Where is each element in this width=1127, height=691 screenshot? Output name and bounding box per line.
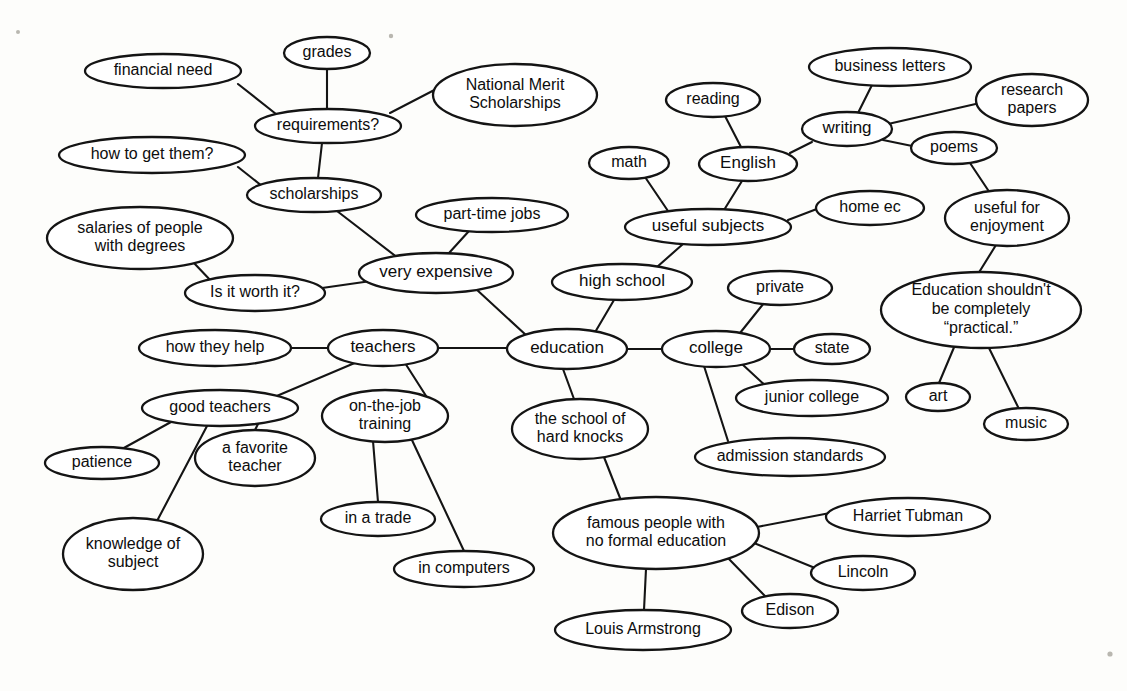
connector-scholarships-to-very-expensive [337,211,398,258]
node-label-poems: poems [930,138,978,155]
connector-math-to-useful-subjects [645,177,668,211]
node-harriet-tubman[interactable]: Harriet Tubman [826,498,990,536]
node-louis-armstrong[interactable]: Louis Armstrong [555,610,731,650]
node-label-is-it-worth-it: Is it worth it? [210,283,300,300]
node-state[interactable]: state [794,334,870,364]
node-label-research-papers: researchpapers [1001,81,1063,117]
connector-famous-people-to-edison [727,557,766,597]
node-business-letters[interactable]: business letters [809,48,971,86]
node-writing[interactable]: writing [802,112,892,146]
node-how-to-get-them[interactable]: how to get them? [59,137,245,173]
node-patience[interactable]: patience [45,447,159,479]
node-education[interactable]: education [507,329,627,369]
connector-on-the-job-training-to-in-a-trade [373,441,378,502]
node-salaries[interactable]: salaries of peoplewith degrees [47,207,233,269]
node-research-papers[interactable]: researchpapers [976,74,1088,126]
node-useful-for-enjoyment[interactable]: useful forenjoyment [945,190,1069,246]
node-grades[interactable]: grades [284,37,370,69]
node-label-how-to-get-them: how to get them? [91,145,214,162]
node-useful-subjects[interactable]: useful subjects [625,209,791,245]
connector-useful-for-enjoyment-to-not-practical [978,245,996,274]
connector-education-to-hard-knocks [563,369,574,399]
node-is-it-worth-it[interactable]: Is it worth it? [185,275,325,311]
connector-very-expensive-to-education [476,289,527,336]
node-junior-college[interactable]: junior college [736,380,888,416]
node-good-teachers[interactable]: good teachers [142,390,298,426]
node-label-music: music [1005,414,1047,431]
node-on-the-job-training[interactable]: on-the-jobtraining [322,390,448,442]
node-admission-standards[interactable]: admission standards [695,438,885,476]
node-reading[interactable]: reading [666,83,760,117]
node-scholarships[interactable]: scholarships [247,178,381,212]
node-in-computers[interactable]: in computers [394,551,534,587]
node-label-in-a-trade: in a trade [345,509,412,526]
node-how-they-help[interactable]: how they help [139,330,291,366]
node-teachers[interactable]: teachers [328,330,438,366]
connector-not-practical-to-music [988,346,1019,409]
paper-speck [16,30,20,34]
node-label-teachers: teachers [350,337,415,356]
connector-writing-to-research-papers [888,103,980,124]
node-label-lincoln: Lincoln [838,563,889,580]
idea-web-svg: educationgradesfinancial needrequirement… [0,0,1127,691]
node-edison[interactable]: Edison [742,594,838,628]
node-label-on-the-job-training: on-the-jobtraining [349,397,421,433]
connector-hard-knocks-to-famous-people [602,452,622,503]
node-label-state: state [815,339,850,356]
node-lincoln[interactable]: Lincoln [811,556,915,590]
node-label-how-they-help: how they help [166,338,265,355]
node-label-private: private [756,278,804,295]
node-in-a-trade[interactable]: in a trade [321,502,435,536]
node-label-college: college [689,338,743,357]
node-label-useful-subjects: useful subjects [652,216,764,235]
node-label-home-ec: home ec [839,198,900,215]
node-poems[interactable]: poems [911,132,997,164]
node-label-requirements: requirements? [277,116,379,133]
node-national-merit[interactable]: National MeritScholarships [433,64,597,126]
connector-famous-people-to-harriet-tubman [757,513,830,527]
node-hard-knocks[interactable]: the school ofhard knocks [512,399,648,459]
connector-famous-people-to-lincoln [754,543,815,568]
node-requirements[interactable]: requirements? [255,109,401,143]
node-college[interactable]: college [662,331,770,367]
idea-web-canvas: educationgradesfinancial needrequirement… [0,0,1127,691]
connector-high-school-to-useful-subjects [657,244,683,267]
node-label-famous-people: famous people withno formal education [586,514,727,550]
node-financial-need[interactable]: financial need [85,54,241,88]
node-english[interactable]: English [699,147,797,181]
node-label-good-teachers: good teachers [169,398,270,415]
node-not-practical[interactable]: Education shouldn'tbe completely“practic… [881,272,1081,348]
node-private[interactable]: private [728,271,832,305]
node-label-reading: reading [686,90,739,107]
connector-education-to-high-school [594,300,614,334]
node-part-time-jobs[interactable]: part-time jobs [416,198,568,232]
node-label-english: English [720,153,776,172]
connector-financial-need-to-requirements [238,84,276,114]
connector-how-to-get-them-to-scholarships [238,167,262,186]
node-label-admission-standards: admission standards [717,447,864,464]
node-layer: educationgradesfinancial needrequirement… [45,37,1088,650]
node-a-favorite-teacher[interactable]: a favoriteteacher [195,430,315,486]
connector-writing-to-business-letters [858,85,872,113]
node-very-expensive[interactable]: very expensive [359,253,513,293]
connector-requirements-to-scholarships [318,143,322,178]
node-label-part-time-jobs: part-time jobs [444,205,541,222]
connector-english-to-writing [790,142,812,153]
connector-college-to-private [740,303,764,333]
node-label-in-computers: in computers [418,559,510,576]
node-math[interactable]: math [589,147,669,179]
node-label-art: art [929,387,948,404]
node-label-math: math [611,153,647,170]
connector-poems-to-useful-for-enjoyment [968,160,990,193]
node-famous-people[interactable]: famous people withno formal education [553,497,759,569]
connector-on-the-job-training-to-in-computers [411,438,464,551]
node-home-ec[interactable]: home ec [816,191,924,225]
node-knowledge-of-subject[interactable]: knowledge ofsubject [63,518,203,590]
node-label-hard-knocks: the school ofhard knocks [535,410,626,446]
node-high-school[interactable]: high school [552,264,692,300]
connector-is-it-worth-it-to-very-expensive [322,281,371,288]
connector-teachers-to-good-teachers [272,362,357,398]
node-label-useful-for-enjoyment: useful forenjoyment [970,199,1044,235]
node-art[interactable]: art [906,383,970,411]
node-music[interactable]: music [984,408,1068,440]
